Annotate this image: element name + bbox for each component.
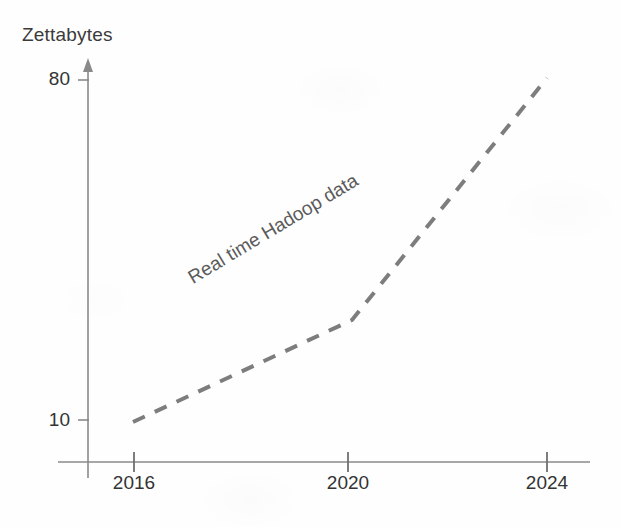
chart-container: Zettabytes 80 10 2016 2020 2024 Real tim… — [0, 0, 622, 527]
x-tick-label-2020: 2020 — [313, 472, 383, 494]
x-tick-label-2024: 2024 — [512, 472, 582, 494]
y-tick-label-10: 10 — [26, 409, 70, 431]
y-tick-label-80: 80 — [26, 68, 70, 90]
y-axis-title: Zettabytes — [22, 24, 113, 46]
x-tick-label-2016: 2016 — [99, 472, 169, 494]
data-series-line — [133, 78, 547, 422]
y-axis-arrow-icon — [83, 58, 93, 72]
chart-plot-area — [0, 0, 622, 527]
